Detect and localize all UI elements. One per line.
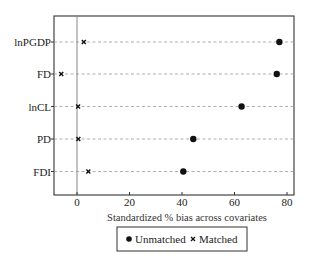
unmatched-point-fd [274,71,280,77]
category-label-lncl: lnCL [28,101,51,113]
legend-label-matched: Matched [199,233,238,245]
filled-circle-marker-icon [126,236,132,242]
x-axis-title: Standardized % bias across covariates [107,212,267,223]
unmatched-point-fdi [180,168,186,174]
category-label-fd: FD [37,68,51,80]
legend-label-unmatched: Unmatched [135,233,186,245]
x-tick-label: 20 [124,196,136,208]
unmatched-point-pd [190,136,196,142]
x-tick-label: 60 [229,196,241,208]
legend: Unmatched Matched [117,227,247,251]
category-label-lnpgdp: lnPGDP [14,36,51,48]
x-tick-label: 0 [74,196,80,208]
plot-border [54,16,294,195]
x-axis-ticks: 020406080 [74,192,293,208]
gridlines [54,42,294,172]
y-axis-category-labels: lnPGDPFDlnCLPDFDI [14,36,54,178]
bias-dot-plot: 020406080 lnPGDPFDlnCLPDFDI Standardized… [0,0,311,268]
category-label-pd: PD [37,133,51,145]
unmatched-point-lnpgdp [276,39,282,45]
x-tick-label: 40 [177,196,189,208]
unmatched-point-lncl [238,103,244,109]
category-label-fdi: FDI [33,166,51,178]
plot-frame [54,16,294,195]
x-tick-label: 80 [282,196,294,208]
